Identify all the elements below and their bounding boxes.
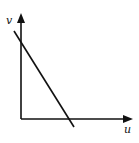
negative-slope-line bbox=[14, 31, 74, 127]
v-axis-arrowhead-icon bbox=[17, 13, 25, 23]
v-axis-label: v bbox=[6, 15, 12, 26]
u-axis-arrowhead-icon bbox=[123, 115, 133, 123]
uv-diagram: v u bbox=[0, 0, 139, 143]
diagram-canvas bbox=[0, 0, 139, 143]
u-axis-label: u bbox=[124, 124, 131, 135]
